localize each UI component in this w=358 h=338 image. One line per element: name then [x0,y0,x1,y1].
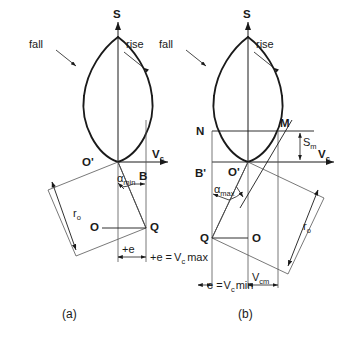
radius-label-ro-b: ro [303,220,311,235]
point-label-m-b: M [280,117,290,129]
panel-b: S Vc fall rise N M Sm B' O' αmax ro Q O … [159,8,334,321]
point-label-bprime-b: B' [195,167,206,179]
dim-label-vcm-b: Vcm [252,271,269,286]
caption-b: (b) [238,307,253,321]
ro-square-a [48,162,146,256]
dim-label-vcmax-a: +e =Vcmax [150,251,208,266]
curve-label-fall-b: fall [159,38,173,50]
curve-label-rise-b: rise [256,38,274,50]
curve-label-fall-a: fall [29,38,43,50]
point-label-origin-b: O' [228,166,240,178]
diagram-canvas: S Vc fall rise O' αmin B ro O Q +e +e =V… [0,0,358,338]
curve-rise-a [118,37,153,162]
curve-rise-b [248,37,283,162]
point-label-b-a: B [139,170,147,182]
axis-label-vc-b: Vc [318,148,330,163]
dim-label-offset-a: +e [122,243,135,255]
angle-arrow-right-b [236,186,243,197]
axis-label-s-b: S [243,8,251,20]
dim-label-vcmin-b: e =Vcmin [207,279,253,294]
point-label-o-b: O [252,232,261,244]
curve-fall-a [83,37,118,162]
axis-label-s-a: S [113,8,121,20]
point-label-q-a: Q [150,221,159,233]
leader-fall-a [56,50,76,66]
leader-fall-b [186,50,206,66]
panel-a: S Vc fall rise O' αmin B ro O Q +e +e =V… [29,8,208,321]
point-label-n-b: N [196,125,204,137]
point-label-o-a: O [90,221,99,233]
curve-fall-b [213,37,248,162]
point-label-q-b: Q [200,232,209,244]
point-label-origin-a: O' [82,156,94,168]
figure-container: S Vc fall rise O' αmin B ro O Q +e +e =V… [0,0,358,338]
caption-a: (a) [62,307,77,321]
stroke-label-sm-b: Sm [303,136,317,151]
axis-label-vc-a: Vc [152,148,164,163]
curve-label-rise-a: rise [126,38,144,50]
radius-label-ro-a: ro [73,207,81,222]
